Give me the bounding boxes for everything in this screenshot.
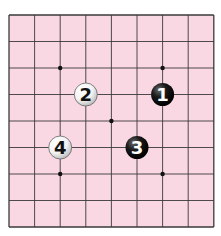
star-point [160,172,164,176]
star-point [58,172,62,176]
go-board: 1234 [0,0,221,236]
stone-move-number: 3 [131,137,144,158]
stone-move-number: 2 [80,84,93,105]
star-point [58,66,62,70]
stone-white-2: 2 [74,83,97,106]
stone-black-3: 3 [126,136,149,159]
star-point [160,66,164,70]
star-point [109,119,113,123]
stone-white-4: 4 [49,136,72,159]
stone-move-number: 1 [156,84,169,105]
stone-black-1: 1 [151,83,174,106]
stone-move-number: 4 [54,137,67,158]
go-board-canvas: 1234 [0,0,221,236]
